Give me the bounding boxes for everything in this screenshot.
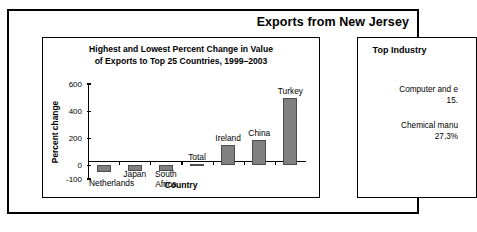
chart-title: Highest and Lowest Percent Change in Val… bbox=[43, 44, 319, 67]
industry-name: Chemical manu bbox=[358, 120, 458, 131]
industry-name: Computer and e bbox=[358, 84, 458, 95]
y-tick bbox=[87, 165, 91, 166]
y-tick-label: 0 bbox=[78, 161, 82, 170]
industry-entry: Chemical manu27.3% bbox=[358, 120, 458, 142]
chart-panel: Highest and Lowest Percent Change in Val… bbox=[42, 37, 320, 198]
y-tick-label: 600 bbox=[69, 80, 82, 89]
bar-category-label: Total bbox=[164, 153, 230, 163]
x-axis-label: Country bbox=[43, 180, 319, 190]
bar-category-label: China bbox=[226, 129, 292, 139]
chart-title-line-2: of Exports to Top 25 Countries, 1999–200… bbox=[43, 56, 319, 68]
x-tick bbox=[150, 161, 151, 165]
exports-card: Exports from New Jersey Highest and Lowe… bbox=[7, 9, 419, 214]
top-industry-title: Top Industry bbox=[358, 45, 441, 55]
top-industry-panel: Top Industry Computer and e15.Chemical m… bbox=[357, 37, 477, 198]
page-title: Exports from New Jersey bbox=[257, 15, 409, 29]
industry-value: 15. bbox=[358, 95, 458, 106]
chart-title-line-1: Highest and Lowest Percent Change in Val… bbox=[43, 44, 319, 56]
bar bbox=[190, 164, 204, 166]
industry-entry: Computer and e15. bbox=[358, 84, 458, 106]
y-tick bbox=[87, 111, 91, 112]
x-tick bbox=[119, 161, 120, 165]
x-tick bbox=[275, 161, 276, 165]
y-tick-label: 400 bbox=[69, 107, 82, 116]
y-axis-label: Percent change bbox=[49, 84, 61, 179]
y-tick bbox=[87, 138, 91, 139]
bar-category-label: Turkey bbox=[257, 87, 323, 97]
industry-value: 27.3% bbox=[358, 131, 458, 142]
y-tick bbox=[87, 83, 91, 84]
x-tick bbox=[244, 161, 245, 165]
plot-area: -1000200400600 NetherlandsJapanSouthAfri… bbox=[88, 84, 306, 179]
y-tick-label: 200 bbox=[69, 134, 82, 143]
